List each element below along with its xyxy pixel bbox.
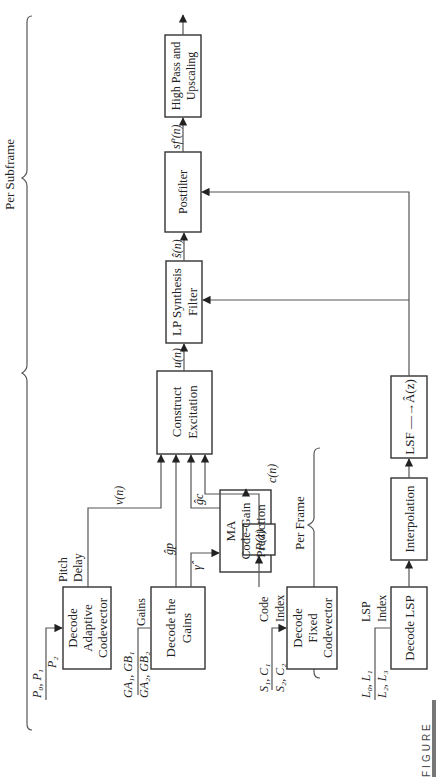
- pz-label: P(z): [252, 529, 267, 552]
- fixed-label-2: Fixed: [305, 613, 320, 643]
- gains-label-1: Decode the: [163, 598, 178, 657]
- lsp-index-label-2: Index: [375, 595, 389, 622]
- g-c-label: ĝc: [192, 493, 206, 505]
- pitch-delay-label-1: Pitch: [56, 557, 70, 582]
- pitch-input-bottom: P₂: [45, 656, 59, 669]
- lsf-to-az-label: LSF —→Â(z): [402, 379, 417, 454]
- pitch-input-top: P₀, P₁: [30, 669, 44, 699]
- lp-synthesis-label-2: Filter: [185, 287, 200, 316]
- lp-synthesis-label-1: LP Synthesis: [169, 268, 184, 336]
- adaptive-label-2: Adaptive: [80, 604, 95, 652]
- fixed-label-1: Decode: [290, 608, 305, 648]
- high-pass-label-1: High Pass and: [169, 42, 183, 111]
- per-subframe-label: Per Subframe: [2, 139, 17, 210]
- code-index-label-2: Index: [273, 595, 287, 622]
- code-index-label-1: Code: [257, 597, 271, 622]
- gains-input-top: GA₁, GB₁: [121, 652, 135, 698]
- postfilter-label: Postfilter: [176, 170, 190, 214]
- figure-tag-bar: [432, 700, 436, 777]
- construct-label-2: Excitation: [185, 385, 200, 439]
- figure-tag: FIGURE: [421, 721, 432, 777]
- u-n-label: u(n): [170, 348, 184, 368]
- adaptive-label-3: Codevector: [95, 597, 110, 658]
- ma-label-1: MA: [223, 520, 238, 542]
- construct-label-1: Construct: [169, 386, 184, 437]
- gains-input-label: Gains: [134, 598, 148, 626]
- sf-n-label: sf′(n): [169, 124, 183, 149]
- code-input-top: S₁, C₁: [257, 664, 271, 692]
- s-hat-n-label: ŝ(n): [170, 239, 184, 258]
- decode-gains-block: [151, 587, 205, 669]
- gains-input-bottom: GA₂, GB₂: [137, 652, 151, 698]
- per-frame-label: Per Frame: [292, 496, 307, 550]
- v-n-label: v(n): [112, 486, 126, 505]
- fixed-label-3: Codevector: [320, 597, 335, 658]
- high-pass-label-2: Upscaling: [184, 52, 198, 101]
- pitch-delay-label-2: Delay: [71, 553, 85, 582]
- interpolation-label: Interpolation: [402, 485, 417, 553]
- gamma-label: γ̂: [190, 560, 204, 570]
- lsp-index-label-1: LSP: [359, 601, 373, 622]
- gains-label-2: Gains: [179, 613, 194, 643]
- codec-decoder-diagram: FIGURE Per Subframe Per Frame High Pass …: [0, 0, 442, 777]
- per-subframe-brace: [22, 16, 32, 730]
- lsp-input-bottom: L₂, L₃: [375, 670, 389, 699]
- decode-lsp-label: Decode LSP: [402, 595, 417, 660]
- adaptive-label-1: Decode: [65, 608, 80, 648]
- ma-label-2: Code-Gain: [238, 502, 253, 560]
- c-n-label: c(n): [265, 464, 279, 483]
- lsp-input-top: L₀, L₁: [359, 670, 373, 699]
- code-input-bottom: S₂, C₂: [273, 664, 287, 692]
- g-p-label: ĝp: [162, 543, 176, 555]
